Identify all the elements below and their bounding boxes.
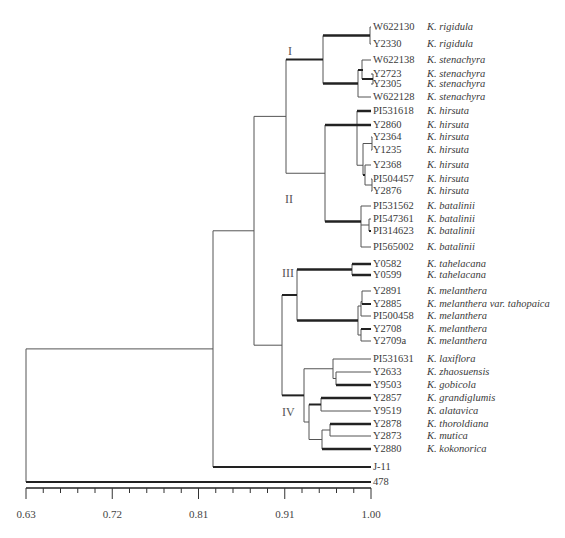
leaf-accession-label: Y2878 <box>373 418 402 430</box>
leaf-species-label: K. melanthera <box>427 335 487 347</box>
leaf-species-label: K. hirsuta <box>427 159 469 171</box>
leaf-accession-label: Y2873 <box>373 430 402 442</box>
leaf-species-label: K. melanthera <box>427 310 487 322</box>
leaf-species-label: K. hirsuta <box>427 105 469 117</box>
cluster-label: II <box>285 192 293 207</box>
axis-tick-label: 0.81 <box>189 508 208 520</box>
leaf-accession-label: Y2860 <box>373 119 402 131</box>
leaf-accession-label: Y2368 <box>373 159 402 171</box>
leaf-accession-label: PI500458 <box>373 310 414 322</box>
leaf-species-label: K. stenachyra <box>427 91 485 103</box>
leaf-species-label: K. laxiflora <box>427 353 475 365</box>
leaf-species-label: K. melanthera var. tahopaica <box>427 298 550 310</box>
leaf-accession-label: PI531618 <box>373 105 414 117</box>
leaf-accession-label: PI565002 <box>373 241 414 253</box>
leaf-species-label: K. stenachyra <box>427 54 485 66</box>
leaf-species-label: K. melanthera <box>427 285 487 297</box>
leaf-accession-label: Y2880 <box>373 443 402 455</box>
leaf-species-label: K. hirsuta <box>427 185 469 197</box>
leaf-accession-label: Y2633 <box>373 366 402 378</box>
axis-tick-label: 0.91 <box>275 508 294 520</box>
leaf-species-label: K. tahelacana <box>427 269 486 281</box>
leaf-accession-label: Y2709a <box>373 335 406 347</box>
leaf-accession-label: Y9503 <box>373 379 402 391</box>
leaf-species-label: K. stenachyra <box>427 78 485 90</box>
leaf-accession-label: Y9519 <box>373 405 402 417</box>
leaf-species-label: K. alatavica <box>427 405 478 417</box>
leaf-accession-label: J-11 <box>373 461 391 473</box>
leaf-species-label: K. grandiglumis <box>427 392 495 404</box>
cluster-label: I <box>288 44 292 59</box>
leaf-species-label: K. kokonorica <box>427 443 487 455</box>
leaf-accession-label: W622138 <box>373 54 414 66</box>
leaf-species-label: K. thoroldiana <box>427 418 488 430</box>
leaf-accession-label: PI314623 <box>373 225 414 237</box>
leaf-accession-label: Y2891 <box>373 285 402 297</box>
leaf-accession-label: Y1235 <box>373 144 402 156</box>
dendrogram: W622130K. rigidulaY2330K. rigidulaW62213… <box>0 0 565 538</box>
leaf-species-label: K. batalinii <box>427 200 475 212</box>
leaf-accession-label: Y2708 <box>373 323 402 335</box>
leaf-species-label: K. batalinii <box>427 213 475 225</box>
leaf-species-label: K. gobicola <box>427 379 476 391</box>
leaf-species-label: K. batalinii <box>427 241 475 253</box>
leaf-accession-label: Y2364 <box>373 131 402 143</box>
leaf-species-label: K. rigidula <box>427 38 473 50</box>
leaf-accession-label: Y2330 <box>373 38 402 50</box>
leaf-accession-label: W622130 <box>373 21 414 33</box>
axis-tick-label: 0.72 <box>103 508 122 520</box>
leaf-accession-label: Y2876 <box>373 185 402 197</box>
leaf-species-label: K. rigidula <box>427 21 473 33</box>
leaf-species-label: K. hirsuta <box>427 173 469 185</box>
leaf-species-label: K. melanthera <box>427 323 487 335</box>
leaf-species-label: K. zhaosuensis <box>427 366 489 378</box>
leaf-accession-label: 478 <box>373 476 389 488</box>
leaf-species-label: K. hirsuta <box>427 131 469 143</box>
leaf-accession-label: PI547361 <box>373 213 414 225</box>
leaf-accession-label: Y2857 <box>373 392 402 404</box>
leaf-accession-label: Y2305 <box>373 78 402 90</box>
leaf-accession-label: W622128 <box>373 91 414 103</box>
leaf-accession-label: PI531562 <box>373 200 414 212</box>
leaf-accession-label: PI531631 <box>373 353 414 365</box>
leaf-species-label: K. hirsuta <box>427 119 469 131</box>
leaf-accession-label: PI504457 <box>373 173 414 185</box>
leaf-species-label: K. batalinii <box>427 225 475 237</box>
cluster-label: IV <box>282 405 295 420</box>
axis-tick-label: 1.00 <box>361 508 380 520</box>
leaf-species-label: K. hirsuta <box>427 144 469 156</box>
leaf-accession-label: Y0599 <box>373 269 402 281</box>
leaf-accession-label: Y2885 <box>373 298 402 310</box>
leaf-species-label: K. mutica <box>427 430 468 442</box>
cluster-label: III <box>282 266 294 281</box>
axis-tick-label: 0.63 <box>16 508 35 520</box>
